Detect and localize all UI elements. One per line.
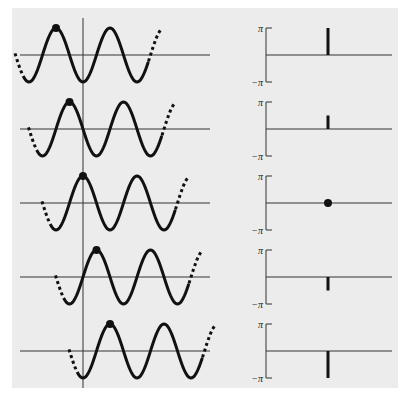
peak-marker-dot <box>79 172 87 180</box>
sinusoid-plot <box>20 92 210 166</box>
phase-label-neg-pi: −π <box>251 151 264 162</box>
phase-label-pi: π <box>258 23 264 34</box>
phase-label-pi: π <box>258 245 264 256</box>
sinusoid-continuation-right <box>176 178 188 209</box>
sinusoid-plot <box>20 240 210 314</box>
peak-marker-dot <box>93 246 101 254</box>
figure-row: π−π <box>20 314 392 388</box>
sinusoid-continuation-left <box>56 275 66 301</box>
figure-row: π−π <box>20 240 392 314</box>
sinusoid-continuation-right <box>149 30 161 61</box>
phase-label-pi: π <box>258 171 264 182</box>
phase-label-pi: π <box>258 319 264 330</box>
figure-row: π−π <box>15 18 392 92</box>
sinusoid-plot <box>20 314 215 388</box>
phase-label-neg-pi: −π <box>251 77 264 88</box>
phase-plot: π−π <box>251 245 392 310</box>
sinusoid-continuation-left <box>69 349 79 375</box>
phase-label-pi: π <box>258 97 264 108</box>
sinusoid-continuation-left <box>29 127 39 153</box>
sinusoid-plot <box>15 18 210 92</box>
phase-label-neg-pi: −π <box>251 373 264 384</box>
sinusoid-continuation-right <box>189 252 201 283</box>
peak-marker-dot <box>66 98 74 106</box>
peak-marker-dot <box>106 320 114 328</box>
phase-plot: π−π <box>251 97 392 162</box>
phase-label-neg-pi: −π <box>251 225 264 236</box>
sinusoid-plot <box>20 166 210 240</box>
peak-marker-dot <box>52 24 60 32</box>
phase-shift-figure: π−ππ−ππ−ππ−ππ−π <box>0 0 407 397</box>
sinusoid-continuation-right <box>162 104 174 135</box>
phase-zero-dot <box>324 199 332 207</box>
phase-label-neg-pi: −π <box>251 299 264 310</box>
sinusoid-continuation-left <box>15 53 25 79</box>
figure-row: π−π <box>20 92 392 166</box>
sinusoid-continuation-left <box>42 201 52 227</box>
figure-row: π−π <box>20 166 392 240</box>
sinusoid-continuation-right <box>203 326 215 357</box>
phase-plot: π−π <box>251 23 392 88</box>
phase-plot: π−π <box>251 319 392 384</box>
phase-plot: π−π <box>251 171 392 236</box>
